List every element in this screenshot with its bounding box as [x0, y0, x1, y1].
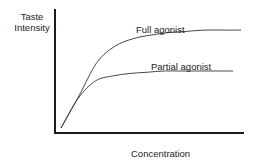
full-agonist-label: Full agonist	[136, 24, 185, 35]
partial-agonist-label: Partial agonist	[151, 61, 211, 72]
x-axis-label: Concentration	[131, 148, 190, 159]
full-agonist-curve	[61, 30, 241, 128]
y-axis-label-line2: Intensity	[10, 22, 54, 33]
y-axis-label: Taste Intensity	[10, 11, 54, 33]
y-axis-label-line1: Taste	[10, 11, 54, 22]
